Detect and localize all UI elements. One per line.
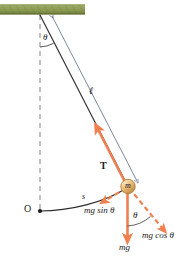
- pivot-angle-arc: [40, 43, 54, 47]
- bob-mass-label: m: [125, 182, 131, 190]
- diagram-canvas: [0, 0, 194, 257]
- weight-label: mg: [119, 243, 130, 252]
- length-label: ℓ: [89, 86, 93, 96]
- bob-angle-arc: [128, 217, 151, 227]
- pivot-angle-label: θ: [43, 33, 47, 42]
- origin-point: [38, 209, 42, 213]
- pendulum-diagram: θ ℓ T m O s mg sin θ mg cos θ mg θ: [0, 0, 194, 257]
- bob-angle-label: θ: [133, 211, 137, 220]
- tension-force-arrow: [98, 129, 128, 187]
- tension-label: T: [100, 161, 107, 171]
- radial-force-label: mg cos θ: [142, 231, 174, 240]
- radial-component-arrow: [129, 188, 163, 229]
- origin-label: O: [24, 204, 31, 214]
- length-dimension-arrow: [52, 16, 137, 181]
- tangential-force-label: mg sin θ: [84, 206, 114, 215]
- arc-length-label: s: [82, 193, 85, 201]
- ceiling-support: [0, 4, 85, 15]
